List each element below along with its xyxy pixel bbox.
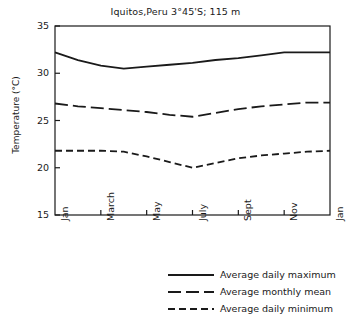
series-line-1 bbox=[55, 103, 330, 117]
legend-label: Average monthly mean bbox=[220, 286, 331, 297]
x-tick-march-1: March bbox=[105, 192, 116, 221]
legend-swatch-solid bbox=[168, 270, 214, 280]
x-tick-july-3: July bbox=[197, 204, 208, 221]
y-tick-30: 30 bbox=[27, 67, 49, 78]
x-tick-jan-6: Jan bbox=[334, 206, 345, 221]
legend-item: Average monthly mean bbox=[168, 283, 348, 300]
y-tick-25: 25 bbox=[27, 115, 49, 126]
axis-frame bbox=[55, 26, 330, 215]
x-tick-may-2: May bbox=[151, 201, 162, 221]
series-lines bbox=[55, 52, 330, 167]
x-tick-nov-5: Nov bbox=[288, 202, 299, 221]
legend-item: Average daily maximum bbox=[168, 266, 348, 283]
legend-label: Average daily maximum bbox=[220, 269, 336, 280]
x-tick-jan-0: Jan bbox=[59, 206, 70, 221]
climate-chart: Iquitos,Peru 3°45'S; 115 m Temperature (… bbox=[0, 0, 351, 328]
series-line-2 bbox=[55, 151, 330, 168]
axis-tick-marks bbox=[55, 26, 284, 215]
x-tick-sept-4: Sept bbox=[242, 199, 253, 221]
legend-item: Average daily minimum bbox=[168, 300, 348, 317]
series-line-0 bbox=[55, 52, 330, 68]
legend-swatch-short-dash bbox=[168, 304, 214, 314]
y-axis-title: Temperature (°C) bbox=[11, 50, 21, 180]
y-tick-15: 15 bbox=[27, 209, 49, 220]
chart-legend: Average daily maximumAverage monthly mea… bbox=[168, 266, 348, 317]
y-tick-20: 20 bbox=[27, 162, 49, 173]
chart-title: Iquitos,Peru 3°45'S; 115 m bbox=[0, 6, 351, 17]
legend-swatch-long-dash bbox=[168, 287, 214, 297]
y-tick-35: 35 bbox=[27, 20, 49, 31]
legend-label: Average daily minimum bbox=[220, 303, 333, 314]
